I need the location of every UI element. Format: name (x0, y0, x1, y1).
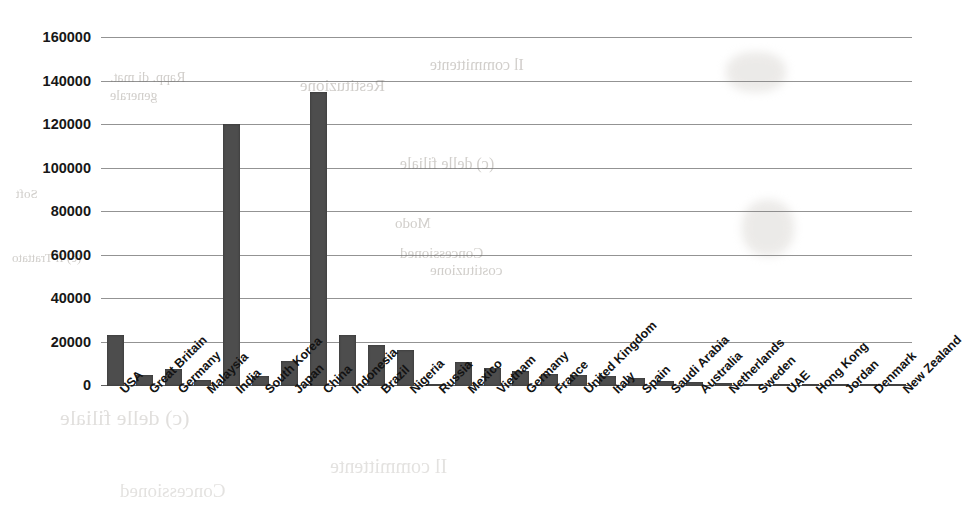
plot-area (101, 38, 912, 386)
y-tick-label: 140000 (5, 73, 91, 89)
y-tick-label: 40000 (5, 290, 91, 306)
y-tick-label: 60000 (5, 247, 91, 263)
y-tick-label: 0 (5, 377, 91, 393)
y-tick-label: 20000 (5, 334, 91, 350)
y-tick-label: 100000 (5, 160, 91, 176)
x-axis-category-labels: USAGreat BritainGermanyMalaysiaIndiaSout… (101, 388, 912, 514)
y-tick-label: 120000 (5, 116, 91, 132)
y-tick-label: 160000 (5, 29, 91, 45)
y-tick-label: 80000 (5, 203, 91, 219)
gridline (101, 81, 912, 82)
bar[interactable] (223, 124, 240, 386)
gridline (101, 37, 912, 38)
bar[interactable] (107, 335, 124, 386)
